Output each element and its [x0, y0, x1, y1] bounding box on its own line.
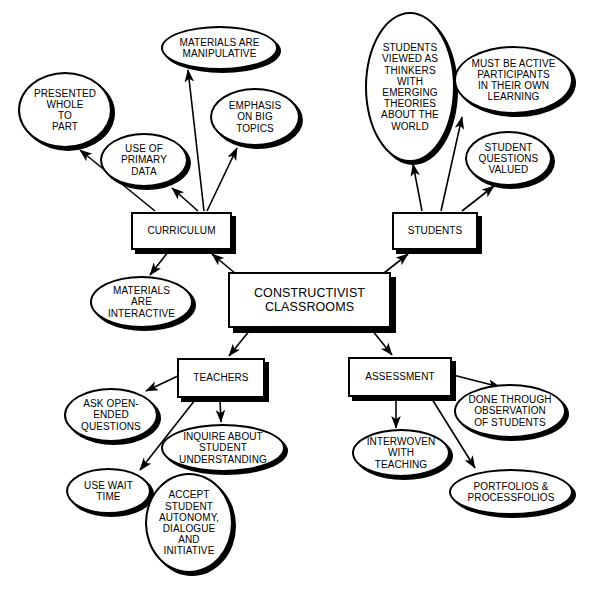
- node-label-curriculum: CURRICULUM: [145, 225, 217, 236]
- node-label-ask-open-ended-questions: ASK OPEN- ENDED QUESTIONS: [79, 398, 143, 432]
- node-label-emphasis-on-big-topics: EMPHASIS ON BIG TOPICS: [227, 100, 283, 134]
- node-materials-are-interactive[interactable]: MATERIALS ARE INTERACTIVE: [90, 276, 193, 328]
- concept-map-canvas: CONSTRUCTIVIST CLASSROOMSCURRICULUMSTUDE…: [0, 0, 589, 596]
- node-materials-are-manipulative[interactable]: MATERIALS ARE MANIPULATIVE: [161, 26, 278, 70]
- node-presented-whole-to-part[interactable]: PRESENTED WHOLE TO PART: [18, 72, 112, 148]
- node-student-questions-valued[interactable]: STUDENT QUESTIONS VALUED: [465, 131, 552, 186]
- node-label-presented-whole-to-part: PRESENTED WHOLE TO PART: [32, 88, 98, 133]
- node-label-teachers: TEACHERS: [191, 372, 250, 383]
- node-use-of-primary-data[interactable]: USE OF PRIMARY DATA: [100, 133, 188, 187]
- node-label-use-of-primary-data: USE OF PRIMARY DATA: [119, 143, 169, 177]
- node-label-interwoven-with-teaching: INTERWOVEN WITH TEACHING: [365, 436, 438, 470]
- node-central[interactable]: CONSTRUCTIVIST CLASSROOMS: [228, 272, 391, 328]
- node-students[interactable]: STUDENTS: [392, 212, 478, 250]
- node-layer: CONSTRUCTIVIST CLASSROOMSCURRICULUMSTUDE…: [0, 0, 589, 596]
- node-accept-student-autonomy[interactable]: ACCEPT STUDENT AUTONOMY, DIALOGUE AND IN…: [145, 473, 233, 573]
- node-label-students: STUDENTS: [406, 225, 465, 236]
- node-done-through-observation[interactable]: DONE THROUGH OBSERVATION OF STUDENTS: [454, 384, 566, 438]
- node-must-be-active-participants[interactable]: MUST BE ACTIVE PARTICIPANTS IN THEIR OWN…: [454, 46, 573, 114]
- node-inquire-about-student-understanding[interactable]: INQUIRE ABOUT STUDENT UNDERSTANDING: [161, 424, 285, 472]
- node-label-student-questions-valued: STUDENT QUESTIONS VALUED: [477, 142, 541, 176]
- node-assessment[interactable]: ASSESSMENT: [348, 357, 452, 397]
- node-use-wait-time[interactable]: USE WAIT TIME: [66, 468, 151, 514]
- node-label-materials-are-interactive: MATERIALS ARE INTERACTIVE: [106, 285, 177, 319]
- node-label-use-wait-time: USE WAIT TIME: [82, 480, 135, 502]
- node-label-must-be-active-participants: MUST BE ACTIVE PARTICIPANTS IN THEIR OWN…: [469, 58, 557, 103]
- node-interwoven-with-teaching[interactable]: INTERWOVEN WITH TEACHING: [352, 429, 450, 477]
- node-portfolios-processfolios[interactable]: PORTFOLIOS & PROCESSFOLIOS: [449, 469, 573, 515]
- node-label-central: CONSTRUCTIVIST CLASSROOMS: [252, 286, 367, 314]
- node-emphasis-on-big-topics[interactable]: EMPHASIS ON BIG TOPICS: [210, 88, 300, 146]
- node-curriculum[interactable]: CURRICULUM: [131, 212, 232, 250]
- node-label-students-viewed-as-thinkers: STUDENTS VIEWED AS THINKERS WITH EMERGIN…: [379, 42, 441, 132]
- node-label-materials-are-manipulative: MATERIALS ARE MANIPULATIVE: [177, 37, 261, 59]
- node-students-viewed-as-thinkers[interactable]: STUDENTS VIEWED AS THINKERS WITH EMERGIN…: [365, 12, 455, 162]
- node-label-assessment: ASSESSMENT: [363, 371, 436, 382]
- node-label-inquire-about-student-understanding: INQUIRE ABOUT STUDENT UNDERSTANDING: [177, 431, 269, 465]
- node-teachers[interactable]: TEACHERS: [177, 358, 265, 398]
- node-label-accept-student-autonomy: ACCEPT STUDENT AUTONOMY, DIALOGUE AND IN…: [157, 489, 221, 556]
- node-ask-open-ended-questions[interactable]: ASK OPEN- ENDED QUESTIONS: [64, 388, 158, 442]
- node-label-portfolios-processfolios: PORTFOLIOS & PROCESSFOLIOS: [466, 481, 557, 503]
- node-label-done-through-observation: DONE THROUGH OBSERVATION OF STUDENTS: [466, 394, 553, 428]
